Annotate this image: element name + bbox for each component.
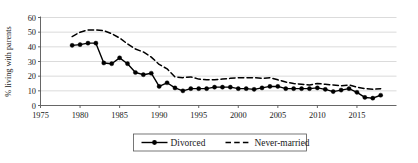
data-point bbox=[268, 84, 272, 88]
x-axis-ticks: 197519801985199019952000200520102015 bbox=[32, 106, 365, 120]
x-tick-label: 1975 bbox=[32, 111, 49, 120]
data-point bbox=[228, 85, 232, 89]
data-point bbox=[149, 71, 153, 75]
data-point bbox=[94, 41, 98, 45]
data-point bbox=[236, 87, 240, 91]
data-point bbox=[315, 86, 319, 90]
line-chart: 0102030405060197519801985199019952000200… bbox=[0, 0, 418, 163]
x-tick-label: 1995 bbox=[190, 111, 207, 120]
data-point bbox=[157, 84, 161, 88]
x-tick-label: 2010 bbox=[309, 111, 326, 120]
data-point bbox=[244, 87, 248, 91]
legend: DivorcedNever-married bbox=[134, 134, 310, 151]
data-point bbox=[371, 96, 375, 100]
y-tick-label: 60 bbox=[28, 14, 36, 23]
x-tick-label: 2000 bbox=[230, 111, 247, 120]
data-point bbox=[205, 87, 209, 91]
data-point bbox=[284, 87, 288, 91]
data-point bbox=[339, 88, 343, 92]
y-axis-ticks: 0102030405060 bbox=[28, 14, 41, 111]
data-point bbox=[133, 70, 137, 74]
x-tick-label: 1985 bbox=[111, 111, 128, 120]
data-point bbox=[292, 87, 296, 91]
x-tick-label: 1990 bbox=[151, 111, 168, 120]
data-point bbox=[252, 87, 256, 91]
data-point bbox=[299, 87, 303, 91]
data-point bbox=[323, 87, 327, 91]
legend-label-divorced: Divorced bbox=[171, 138, 206, 148]
data-point bbox=[307, 87, 311, 91]
y-tick-label: 40 bbox=[28, 43, 36, 52]
series-group bbox=[70, 30, 383, 100]
data-point bbox=[363, 95, 367, 99]
data-point bbox=[165, 81, 169, 85]
data-point bbox=[212, 85, 216, 89]
x-tick-label: 1980 bbox=[72, 111, 89, 120]
data-point bbox=[331, 89, 335, 93]
data-point bbox=[110, 62, 114, 66]
gridlines bbox=[41, 18, 397, 91]
y-tick-label: 0 bbox=[32, 102, 36, 111]
y-tick-label: 20 bbox=[28, 72, 36, 81]
y-tick-label: 30 bbox=[28, 58, 36, 67]
legend-label-never-married: Never-married bbox=[255, 138, 310, 148]
data-point bbox=[102, 61, 106, 65]
data-point bbox=[181, 89, 185, 93]
legend-marker-divorced bbox=[152, 140, 157, 145]
y-tick-label: 10 bbox=[28, 87, 36, 96]
data-point bbox=[379, 93, 383, 97]
data-point bbox=[70, 43, 74, 47]
data-point bbox=[197, 87, 201, 91]
data-point bbox=[86, 41, 90, 45]
data-point bbox=[220, 85, 224, 89]
data-point bbox=[347, 87, 351, 91]
data-point bbox=[78, 43, 82, 47]
data-point bbox=[189, 87, 193, 91]
data-point bbox=[141, 73, 145, 77]
data-point bbox=[125, 62, 129, 66]
y-axis-title: % living with parents bbox=[4, 26, 13, 96]
x-tick-label: 2015 bbox=[349, 111, 366, 120]
x-tick-label: 2005 bbox=[269, 111, 286, 120]
chart-figure: 0102030405060197519801985199019952000200… bbox=[0, 0, 418, 163]
data-point bbox=[260, 86, 264, 90]
data-point bbox=[276, 84, 280, 88]
data-point bbox=[118, 56, 122, 60]
data-point bbox=[173, 86, 177, 90]
data-point bbox=[355, 90, 359, 94]
y-tick-label: 50 bbox=[28, 28, 36, 37]
